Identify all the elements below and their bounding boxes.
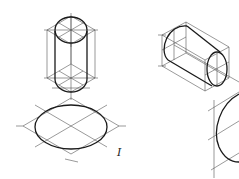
horizontal-cylinder bbox=[158, 22, 239, 91]
vertical-cylinder bbox=[44, 13, 98, 100]
view-label: I bbox=[116, 146, 122, 159]
partial-ellipse-side-view bbox=[208, 92, 239, 178]
drawing-canvas: I bbox=[0, 0, 239, 179]
ellipse-in-rhombus bbox=[16, 98, 126, 162]
